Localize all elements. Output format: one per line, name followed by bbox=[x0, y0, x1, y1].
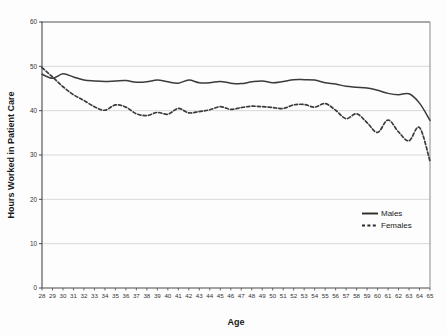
x-axis-ticks: 2829303132333435363738394041424344454647… bbox=[39, 288, 434, 299]
x-tick-label-28: 28 bbox=[39, 292, 46, 299]
y-axis-ticks: 0102030405060 bbox=[30, 18, 42, 291]
line-chart: 0102030405060 28293031323334353637383940… bbox=[0, 0, 447, 335]
x-tick-label-59: 59 bbox=[364, 292, 371, 299]
x-tick-label-54: 54 bbox=[311, 292, 318, 299]
x-tick-label-58: 58 bbox=[353, 292, 360, 299]
x-tick-label-41: 41 bbox=[175, 292, 182, 299]
x-tick-label-62: 62 bbox=[395, 292, 402, 299]
x-tick-label-55: 55 bbox=[322, 292, 329, 299]
y-tick-label-20: 20 bbox=[30, 196, 38, 203]
y-tick-label-60: 60 bbox=[30, 18, 38, 25]
x-tick-label-44: 44 bbox=[206, 292, 213, 299]
x-tick-label-40: 40 bbox=[164, 292, 171, 299]
x-tick-label-47: 47 bbox=[238, 292, 245, 299]
x-tick-label-36: 36 bbox=[122, 292, 129, 299]
x-tick-label-65: 65 bbox=[427, 292, 434, 299]
chart-container: 0102030405060 28293031323334353637383940… bbox=[0, 0, 447, 335]
x-tick-label-57: 57 bbox=[343, 292, 350, 299]
x-tick-label-37: 37 bbox=[133, 292, 140, 299]
x-tick-label-61: 61 bbox=[385, 292, 392, 299]
x-tick-label-29: 29 bbox=[49, 292, 56, 299]
x-tick-label-45: 45 bbox=[217, 292, 224, 299]
x-tick-label-60: 60 bbox=[374, 292, 381, 299]
y-tick-label-30: 30 bbox=[30, 151, 38, 158]
x-axis-title: Age bbox=[227, 317, 244, 327]
series-line-males bbox=[42, 74, 430, 121]
y-axis-title: Hours Worked in Patient Care bbox=[6, 92, 16, 219]
y-tick-label-50: 50 bbox=[30, 63, 38, 70]
x-tick-label-63: 63 bbox=[406, 292, 413, 299]
x-tick-label-35: 35 bbox=[112, 292, 119, 299]
x-tick-label-51: 51 bbox=[280, 292, 287, 299]
legend-label-males: Males bbox=[381, 209, 402, 218]
x-tick-label-33: 33 bbox=[91, 292, 98, 299]
data-series-layer bbox=[42, 68, 430, 162]
x-tick-label-64: 64 bbox=[416, 292, 423, 299]
chart-legend: MalesFemales bbox=[354, 206, 420, 232]
y-tick-label-10: 10 bbox=[30, 240, 38, 247]
x-tick-label-38: 38 bbox=[143, 292, 150, 299]
y-tick-label-40: 40 bbox=[30, 107, 38, 114]
x-tick-label-56: 56 bbox=[332, 292, 339, 299]
x-tick-label-42: 42 bbox=[185, 292, 192, 299]
x-tick-label-30: 30 bbox=[60, 292, 67, 299]
x-tick-label-46: 46 bbox=[227, 292, 234, 299]
x-tick-label-32: 32 bbox=[81, 292, 88, 299]
x-tick-label-31: 31 bbox=[70, 292, 77, 299]
legend-label-females: Females bbox=[381, 221, 412, 230]
x-tick-label-43: 43 bbox=[196, 292, 203, 299]
y-tick-label-0: 0 bbox=[33, 284, 37, 291]
x-tick-label-34: 34 bbox=[101, 292, 108, 299]
x-tick-label-53: 53 bbox=[301, 292, 308, 299]
x-tick-label-39: 39 bbox=[154, 292, 161, 299]
gridlines bbox=[42, 66, 430, 243]
x-tick-label-50: 50 bbox=[269, 292, 276, 299]
x-tick-label-52: 52 bbox=[290, 292, 297, 299]
x-tick-label-48: 48 bbox=[248, 292, 255, 299]
x-tick-label-49: 49 bbox=[259, 292, 266, 299]
